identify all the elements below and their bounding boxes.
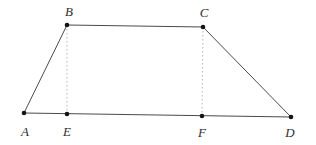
point-label-F: F: [197, 125, 207, 140]
point-C: [201, 25, 206, 30]
point-B: [65, 23, 70, 28]
edge-CD: [203, 27, 291, 117]
edge-BC: [67, 25, 203, 27]
point-label-E: E: [62, 124, 71, 139]
point-label-D: D: [284, 125, 295, 140]
edge-AD: [24, 113, 291, 117]
trapezoid-figure: ABCDEF: [0, 0, 316, 145]
point-D: [289, 115, 294, 120]
point-label-A: A: [20, 124, 29, 139]
edge-AB: [24, 25, 67, 113]
geometry-diagram: ABCDEF: [0, 0, 316, 145]
point-label-B: B: [65, 4, 73, 19]
point-label-C: C: [200, 5, 209, 20]
point-F: [200, 114, 205, 119]
edge-CF-dotted: [202, 27, 203, 116]
point-A: [22, 111, 27, 116]
point-E: [65, 112, 70, 117]
